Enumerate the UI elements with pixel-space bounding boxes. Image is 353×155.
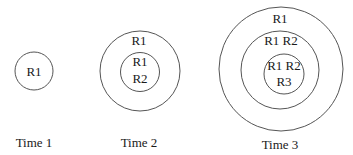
label-inner-r2: R2 [132, 71, 147, 86]
diagram-canvas: R1 Time 1 R1 R1 R2 Time 2 R1 R1 R2 R1 R2… [0, 0, 353, 155]
label-inner-r1-r2: R1 R2 [267, 58, 301, 73]
panel-time-3: R1 R1 R2 R1 R2 R3 Time 3 [219, 7, 343, 152]
caption-time-1: Time 1 [16, 135, 53, 150]
label-inner-r3: R3 [276, 74, 291, 89]
label-inner-r1: R1 [132, 54, 147, 69]
panel-time-1: R1 Time 1 [15, 52, 53, 150]
caption-time-3: Time 3 [262, 137, 299, 152]
panel-time-2: R1 R1 R2 Time 2 [100, 31, 180, 150]
caption-time-2: Time 2 [121, 135, 158, 150]
label-middle-r1-r2: R1 R2 [264, 33, 298, 48]
label-outer-r1: R1 [272, 11, 287, 26]
label-outer-r1: R1 [131, 33, 146, 48]
nested-circles-diagram: R1 Time 1 R1 R1 R2 Time 2 R1 R1 R2 R1 R2… [0, 0, 353, 155]
label-r1: R1 [26, 64, 41, 79]
